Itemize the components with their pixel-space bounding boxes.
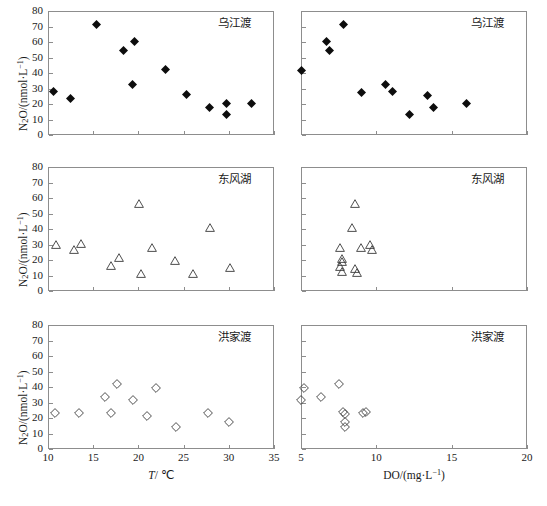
data-point [222, 105, 231, 123]
panel-label-wujiangdu-temp: 乌江渡 [218, 14, 251, 30]
data-point [429, 98, 438, 116]
x-axis-title-right: DO/(mg·L−1) [359, 468, 469, 481]
y-tickmark [49, 42, 53, 43]
y-tickmark [302, 58, 306, 59]
data-point [205, 218, 215, 236]
data-point [161, 60, 170, 78]
y-axis-title: N2O/(nmol·L−1) [16, 370, 30, 445]
x-tickmark [138, 445, 139, 449]
data-point [316, 388, 326, 406]
data-point [142, 407, 152, 425]
data-point [66, 89, 75, 107]
y-tickmark [302, 372, 306, 373]
data-point [106, 404, 116, 422]
x-tickmark [452, 131, 453, 135]
data-point [299, 379, 309, 397]
y-tickmark [49, 449, 53, 450]
y-axis-title: N2O/(nmol·L−1) [16, 56, 30, 131]
y-tickmark [302, 214, 306, 215]
y-tickmark [49, 291, 53, 292]
x-tickmark [184, 445, 185, 449]
x-axis-title-left: T/ ℃ [121, 468, 201, 482]
data-point [119, 41, 128, 59]
y-tickmark [302, 260, 306, 261]
y-tickmark [302, 449, 306, 450]
y-tickmark [302, 104, 306, 105]
data-point [50, 404, 60, 422]
x-tickmark [93, 287, 94, 291]
data-point [128, 75, 137, 93]
y-tickmark [49, 341, 53, 342]
x-tickmark [138, 131, 139, 135]
y-tickmark [302, 183, 306, 184]
y-tickmark [49, 387, 53, 388]
x-tickmark [527, 445, 528, 449]
x-tickmark [301, 287, 302, 291]
y-tickmark [49, 135, 53, 136]
x-tickmark [274, 131, 275, 135]
y-tickmark [302, 229, 306, 230]
x-tickmark [229, 445, 230, 449]
y-tickmark [302, 120, 306, 121]
data-point [297, 61, 306, 79]
data-point [405, 105, 414, 123]
y-tickmark [302, 245, 306, 246]
y-tickmark [49, 198, 53, 199]
x-tick-label: 25 [171, 452, 197, 463]
data-point [339, 15, 348, 33]
x-tickmark [48, 287, 49, 291]
x-tick-label: 15 [80, 452, 106, 463]
y-tick-label: 70 [21, 21, 43, 32]
x-tick-label: 5 [288, 452, 314, 463]
y-tickmark [49, 356, 53, 357]
panel-label-wujiangdu-do: 乌江渡 [471, 14, 504, 30]
y-tickmark [49, 229, 53, 230]
y-tick-label: 80 [21, 319, 43, 330]
data-point [51, 235, 61, 253]
y-tickmark [302, 89, 306, 90]
data-point [136, 264, 146, 282]
y-tickmark [49, 214, 53, 215]
x-tickmark [452, 287, 453, 291]
data-point [92, 15, 101, 33]
panel-label-dongfenghu-do: 东风湖 [471, 170, 504, 186]
y-tickmark [302, 198, 306, 199]
y-tickmark [302, 135, 306, 136]
y-tickmark [49, 120, 53, 121]
data-point [388, 82, 397, 100]
data-point [224, 413, 234, 431]
y-tickmark [49, 183, 53, 184]
y-tickmark [302, 42, 306, 43]
x-tick-label: 15 [439, 452, 465, 463]
x-tickmark [93, 445, 94, 449]
x-tick-label: 20 [125, 452, 151, 463]
data-point [74, 404, 84, 422]
x-tickmark [452, 445, 453, 449]
x-tickmark [274, 287, 275, 291]
x-tickmark [301, 131, 302, 135]
y-tickmark [302, 434, 306, 435]
x-tick-label: 10 [363, 452, 389, 463]
x-tickmark [301, 445, 302, 449]
panel-label-dongfenghu-temp: 东风湖 [218, 170, 251, 186]
y-tick-label: 70 [21, 335, 43, 346]
y-tickmark [302, 167, 306, 168]
y-tickmark [49, 73, 53, 74]
y-tickmark [302, 418, 306, 419]
x-tick-label: 20 [514, 452, 540, 463]
panel-label-hongjiadu-temp: 洪家渡 [218, 328, 251, 344]
y-tickmark [49, 27, 53, 28]
data-point [347, 218, 357, 236]
data-point [114, 248, 124, 266]
data-point [151, 379, 161, 397]
x-tickmark [229, 287, 230, 291]
data-point [147, 238, 157, 256]
y-tickmark [49, 260, 53, 261]
figure-root: 01020304050607080乌江渡N2O/(nmol·L−1)乌江渡010… [0, 0, 547, 506]
data-point [203, 404, 213, 422]
data-point [76, 234, 86, 252]
data-point [112, 375, 122, 393]
data-point [340, 418, 350, 436]
data-point [205, 98, 214, 116]
y-tick-label: 80 [21, 161, 43, 172]
